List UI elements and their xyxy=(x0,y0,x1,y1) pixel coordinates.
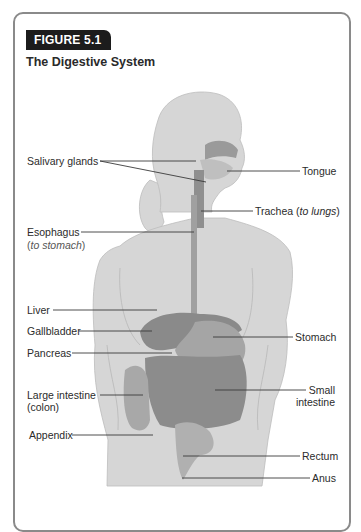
label-small-intestine-1: Small xyxy=(296,384,335,396)
small-intestine-shape xyxy=(145,355,247,429)
label-esophagus: Esophagus xyxy=(27,226,80,238)
label-stomach: Stomach xyxy=(295,331,336,343)
label-appendix: Appendix xyxy=(29,429,73,441)
label-anus: Anus xyxy=(312,472,336,484)
label-trachea: Trachea (to lungs) xyxy=(255,205,340,217)
label-liver: Liver xyxy=(27,304,50,316)
label-large-intestine-sub: (colon) xyxy=(27,401,59,413)
label-pancreas: Pancreas xyxy=(27,347,71,359)
label-esophagus-sub: (to stomach) xyxy=(27,239,85,251)
label-large-intestine: Large intestine xyxy=(27,389,96,401)
label-salivary-glands: Salivary glands xyxy=(27,155,98,167)
label-gallbladder: Gallbladder xyxy=(27,325,81,337)
label-small-intestine-2: intestine xyxy=(285,396,335,408)
label-rectum: Rectum xyxy=(302,450,338,462)
label-tongue: Tongue xyxy=(302,165,336,177)
esophagus-shape xyxy=(191,195,197,325)
